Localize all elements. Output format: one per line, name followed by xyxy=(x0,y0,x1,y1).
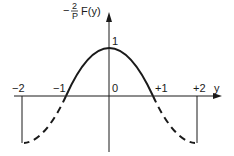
tick-label-plus-2: +2 xyxy=(193,82,206,94)
dashed-curve-right xyxy=(153,96,195,143)
ylabel-sign: − xyxy=(63,4,69,16)
dashed-curve-left xyxy=(24,96,66,143)
tick-label-minus-2: −2 xyxy=(12,82,25,94)
ylabel-denominator: P xyxy=(72,11,78,21)
diagram-canvas: −2 −1 0 +1 +2 1 y − 2 P F(y) xyxy=(0,0,234,156)
y-axis-arrow-icon xyxy=(106,12,112,22)
ylabel-function: F(y) xyxy=(81,5,101,17)
x-axis-label: y xyxy=(214,82,220,94)
tick-label-zero: 0 xyxy=(112,82,118,94)
peak-label: 1 xyxy=(112,35,118,47)
plot-svg: −2 −1 0 +1 +2 1 y − 2 P F(y) xyxy=(0,0,234,156)
tick-label-plus-1: +1 xyxy=(155,82,168,94)
ylabel-numerator: 2 xyxy=(72,1,77,11)
tick-label-minus-1: −1 xyxy=(53,82,66,94)
